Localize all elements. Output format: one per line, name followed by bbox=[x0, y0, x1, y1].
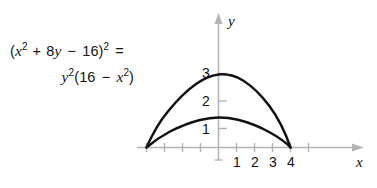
y-axis-label: y bbox=[228, 14, 235, 29]
x-axis-label: x bbox=[356, 155, 363, 170]
x-tick-label-1: 1 bbox=[229, 155, 245, 169]
figure-container: (x2 + 8y − 16)2 = y2(16 − x2) bbox=[0, 0, 377, 188]
y-tick-label-3: 3 bbox=[198, 66, 214, 80]
y-tick-label-2: 2 bbox=[198, 94, 214, 108]
coordinate-plot bbox=[0, 0, 377, 188]
x-tick-label-2: 2 bbox=[247, 155, 263, 169]
x-axis-arrowhead bbox=[352, 144, 364, 152]
x-tick-label-3: 3 bbox=[265, 155, 281, 169]
y-tick-label-1: 1 bbox=[198, 122, 214, 136]
x-tick-label-4: 4 bbox=[283, 155, 299, 169]
y-axis-arrowhead bbox=[215, 13, 223, 24]
